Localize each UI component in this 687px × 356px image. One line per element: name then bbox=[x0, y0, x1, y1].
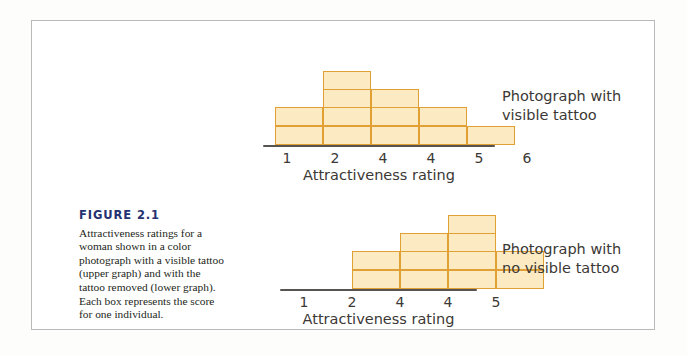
histogram-box bbox=[352, 251, 400, 270]
histogram-column bbox=[352, 252, 400, 289]
x-tick-label: 5 bbox=[455, 150, 503, 166]
histogram-box bbox=[371, 107, 419, 126]
figure-frame: FIGURE 2.1 Attractiveness ratings for a … bbox=[31, 20, 655, 330]
x-tick-label: 4 bbox=[376, 294, 424, 310]
histogram-box bbox=[448, 215, 496, 234]
histogram-column bbox=[371, 90, 419, 145]
histogram-box bbox=[400, 233, 448, 252]
histogram-column bbox=[275, 108, 323, 145]
histogram-box bbox=[448, 251, 496, 270]
histogram-box bbox=[275, 107, 323, 126]
x-tick-label: 4 bbox=[407, 150, 455, 166]
histogram-column bbox=[467, 126, 515, 145]
figure-caption-block: FIGURE 2.1 Attractiveness ratings for a … bbox=[79, 209, 227, 322]
histogram-column bbox=[400, 234, 448, 289]
histogram-box bbox=[323, 71, 371, 90]
x-tick-label: 1 bbox=[280, 294, 328, 310]
x-tick-label: 4 bbox=[424, 294, 472, 310]
x-tick-label: 4 bbox=[359, 150, 407, 166]
histogram-box bbox=[419, 107, 467, 126]
chart-upper-series-label: Photograph with visible tattoo bbox=[502, 87, 621, 125]
chart-upper-x-axis-title: Attractiveness rating bbox=[263, 167, 495, 183]
histogram-box bbox=[400, 251, 448, 270]
histogram-box bbox=[371, 89, 419, 108]
histogram-column bbox=[419, 108, 467, 145]
chart-lower-x-axis bbox=[280, 289, 477, 291]
histogram-box bbox=[323, 107, 371, 126]
histogram-box bbox=[371, 126, 419, 145]
chart-lower-x-axis-title: Attractiveness rating bbox=[280, 311, 477, 327]
chart-upper-x-axis bbox=[263, 145, 495, 147]
histogram-column bbox=[448, 216, 496, 289]
x-tick-label: 5 bbox=[472, 294, 520, 310]
histogram-box bbox=[275, 126, 323, 145]
histogram-box bbox=[352, 270, 400, 289]
chart-lower-series-label: Photograph with no visible tattoo bbox=[502, 240, 621, 278]
chart-lower-tick-labels: 12445 bbox=[280, 294, 520, 310]
x-tick-label: 6 bbox=[503, 150, 551, 166]
histogram-box bbox=[400, 270, 448, 289]
chart-lower-plot-area bbox=[304, 207, 520, 289]
histogram-box bbox=[467, 126, 515, 145]
x-tick-label: 2 bbox=[328, 294, 376, 310]
histogram-box bbox=[323, 89, 371, 108]
histogram-box bbox=[419, 126, 467, 145]
histogram-box bbox=[448, 233, 496, 252]
chart-upper-tick-labels: 124456 bbox=[263, 150, 551, 166]
histogram-box bbox=[323, 126, 371, 145]
figure-number-label: FIGURE 2.1 bbox=[79, 209, 227, 222]
x-tick-label: 2 bbox=[311, 150, 359, 166]
chart-lower-no-tattoo: 12445 Attractiveness rating bbox=[304, 207, 520, 327]
histogram-box bbox=[448, 270, 496, 289]
x-tick-label: 1 bbox=[263, 150, 311, 166]
figure-caption-text: Attractiveness ratings for a woman shown… bbox=[79, 227, 227, 322]
histogram-column bbox=[323, 72, 371, 145]
